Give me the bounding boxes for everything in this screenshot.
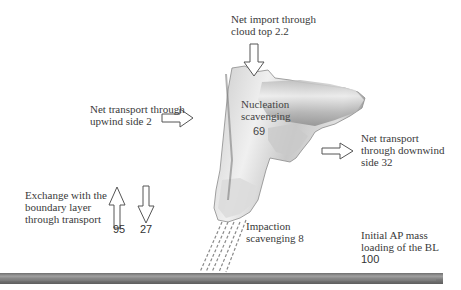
nucleation-label-line1: Nucleation <box>241 98 289 110</box>
nucleation-value: 69 <box>253 125 265 137</box>
exchange-down-arrow-icon <box>138 186 154 223</box>
downwind-label-line3: side 32 <box>361 156 392 168</box>
exchange-label-line2: boundary layer <box>25 201 91 213</box>
upwind-label-line2: upwind side 2 <box>90 115 152 127</box>
ground-bar <box>0 273 443 284</box>
exchange-label-line1: Exchange with the <box>25 189 107 201</box>
exchange-down-value: 27 <box>140 223 152 235</box>
downwind-arrow-icon <box>322 143 353 159</box>
downwind-label-line2: through downwind <box>361 144 444 156</box>
downwind-label-line1: Net transport <box>361 132 419 144</box>
upwind-label-line1: Net transport through <box>90 103 185 115</box>
precipitation-streaks <box>200 220 246 272</box>
cloud-budget-diagram: Net import through cloud top 2.2 Net tra… <box>0 0 461 290</box>
initial-label-line1: Initial AP mass <box>361 229 428 241</box>
impaction-label-line2: scavenging 8 <box>246 232 304 244</box>
exchange-up-arrow-icon <box>109 187 125 228</box>
initial-label-line2: loading of the BL <box>361 241 439 253</box>
impaction-label-line1: Impaction <box>246 220 291 232</box>
cloud-top-label-line1: Net import through <box>231 13 316 25</box>
exchange-up-value: 95 <box>113 223 125 235</box>
cloud-top-label-line2: cloud top 2.2 <box>231 25 289 37</box>
initial-value: 100 <box>361 253 379 265</box>
exchange-label-line3: through transport <box>25 213 101 225</box>
nucleation-label-line2: scavenging <box>241 110 290 122</box>
